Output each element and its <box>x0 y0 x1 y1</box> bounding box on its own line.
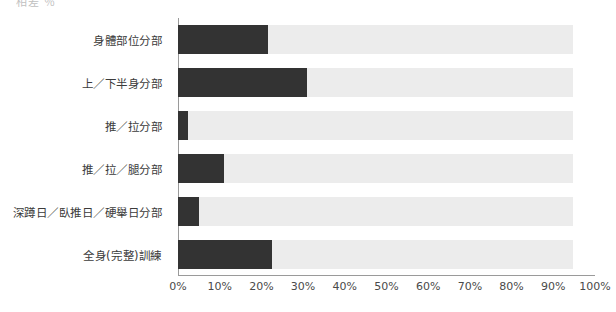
bar-chart: 相差 ％ 身體部位分部上／下半身分部推／拉分部推／拉／腿分部深蹲日／臥推日／硬舉… <box>0 0 616 312</box>
bar-track <box>178 154 573 183</box>
bar-row <box>178 240 595 269</box>
bar-row <box>178 25 595 54</box>
x-tick-label: 30% <box>291 280 315 293</box>
x-tick-label: 0% <box>169 280 186 293</box>
bar-fill <box>178 25 268 54</box>
bar-row <box>178 154 595 183</box>
plot-area <box>178 18 595 276</box>
bar-fill <box>178 111 188 140</box>
bar-row <box>178 111 595 140</box>
bar-fill <box>178 68 307 97</box>
category-label: 上／下半身分部 <box>0 68 170 97</box>
category-axis-labels: 身體部位分部上／下半身分部推／拉分部推／拉／腿分部深蹲日／臥推日／硬舉日分部全身… <box>0 18 170 276</box>
x-tick-label: 40% <box>333 280 357 293</box>
bar-fill <box>178 154 224 183</box>
category-label: 深蹲日／臥推日／硬舉日分部 <box>0 197 170 226</box>
category-label: 推／拉／腿分部 <box>0 154 170 183</box>
x-tick-label: 70% <box>458 280 482 293</box>
bar-row <box>178 197 595 226</box>
bar-fill <box>178 240 272 269</box>
x-tick-label: 10% <box>207 280 231 293</box>
clipped-header-text: 相差 ％ <box>16 0 57 9</box>
bar-fill <box>178 197 199 226</box>
x-tick-label: 60% <box>416 280 440 293</box>
category-label: 全身(完整)訓練 <box>0 240 170 269</box>
x-tick-label: 50% <box>374 280 398 293</box>
x-tick-label: 90% <box>541 280 565 293</box>
bar-track <box>178 111 573 140</box>
category-label: 身體部位分部 <box>0 25 170 54</box>
x-tick-label: 80% <box>499 280 523 293</box>
x-tick-label: 100% <box>579 280 610 293</box>
x-axis-tick-labels: 0%10%20%30%40%50%60%70%80%90%100% <box>178 280 595 300</box>
bar-series <box>178 18 595 276</box>
x-tick-label: 20% <box>249 280 273 293</box>
category-label: 推／拉分部 <box>0 111 170 140</box>
bar-track <box>178 197 573 226</box>
bar-row <box>178 68 595 97</box>
